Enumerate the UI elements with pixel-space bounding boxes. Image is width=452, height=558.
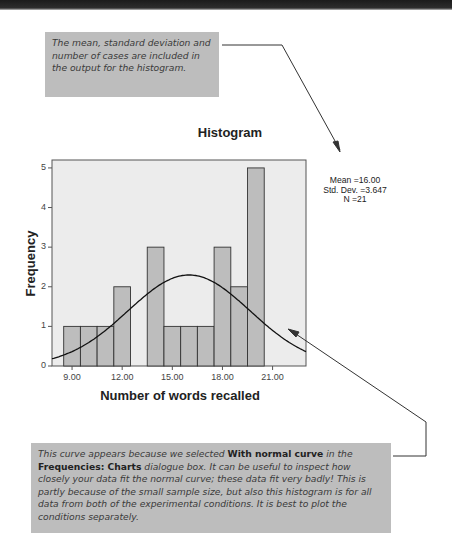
note-text: This curve appears because we selected	[38, 448, 228, 459]
histogram-bar	[97, 326, 114, 366]
y-tick-label: 1	[34, 320, 46, 330]
histogram-bar	[197, 326, 214, 366]
note-text: in the	[323, 448, 352, 459]
x-tick-label: 12.00	[102, 372, 142, 382]
histogram-bar	[231, 287, 248, 366]
y-tick-label: 0	[34, 360, 46, 370]
y-axis-label: Frequency	[23, 214, 38, 314]
annotation-bottom: This curve appears because we selected W…	[31, 443, 391, 533]
histogram-bar	[181, 326, 198, 366]
x-tick-label: 18.00	[202, 372, 242, 382]
y-tick-label: 2	[34, 281, 46, 291]
connector-top-arrow	[222, 45, 340, 152]
y-tick-label: 3	[34, 241, 46, 251]
x-tick-label: 21.00	[253, 372, 293, 382]
x-axis-label: Number of words recalled	[80, 388, 280, 403]
y-axis-ticks	[48, 168, 52, 366]
y-tick-label: 4	[34, 202, 46, 212]
histogram-bar	[164, 326, 181, 366]
note-bold-dialog: Frequencies: Charts	[38, 461, 141, 472]
histogram-bar	[214, 247, 231, 366]
histogram-bar	[114, 287, 131, 366]
y-tick-label: 5	[34, 162, 46, 172]
note-bold-option: With normal curve	[228, 448, 324, 459]
x-tick-label: 9.00	[52, 372, 92, 382]
histogram-bar	[147, 247, 164, 366]
connector-bottom-arrow	[288, 329, 426, 456]
x-axis-ticks	[72, 366, 273, 370]
x-tick-label: 15.00	[152, 372, 192, 382]
histogram-bar	[248, 168, 265, 366]
histogram-bar	[64, 326, 81, 366]
